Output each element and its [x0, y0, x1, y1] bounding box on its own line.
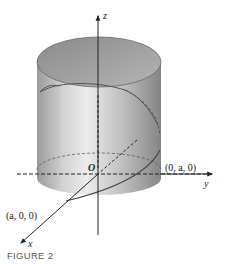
point-y-intercept-label: (0, a, 0)	[165, 162, 196, 173]
origin-label: O	[88, 162, 95, 173]
x-axis-label: x	[28, 238, 32, 249]
figure-caption: FIGURE 2	[7, 250, 53, 261]
z-axis-label: z	[103, 10, 107, 21]
cylinder	[37, 37, 161, 195]
y-axis-label: y	[204, 178, 208, 189]
point-x-intercept-label: (a, 0, 0)	[6, 210, 37, 221]
cylinder-helix-diagram	[0, 0, 226, 271]
